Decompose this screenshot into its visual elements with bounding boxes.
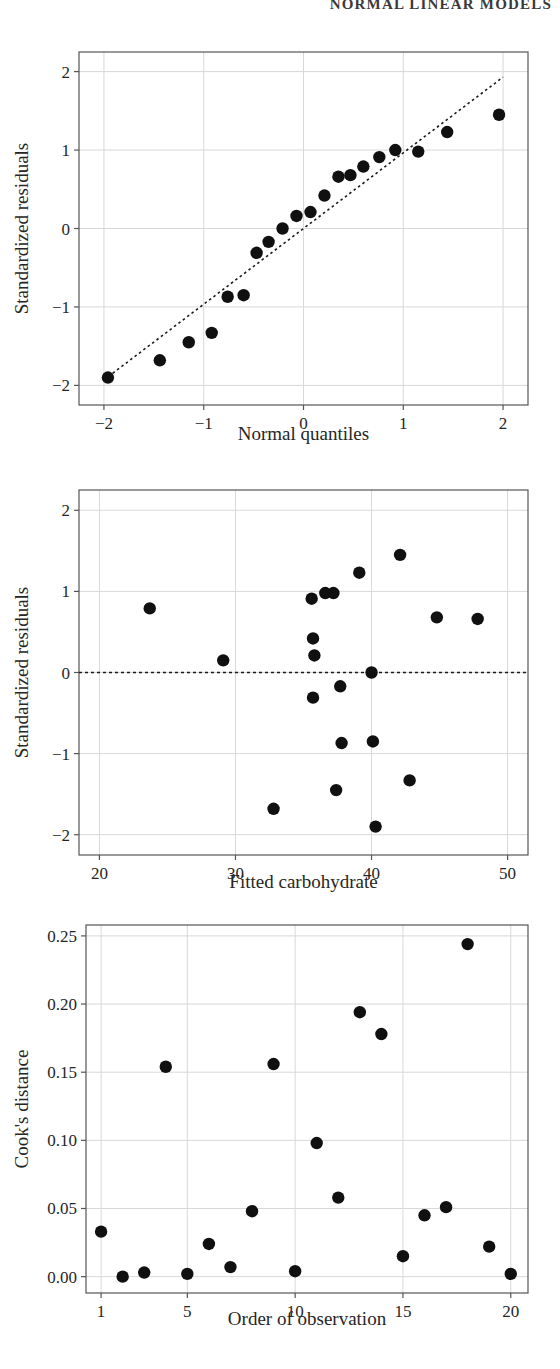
- data-point: [330, 784, 342, 796]
- data-point: [246, 1205, 258, 1217]
- data-point: [154, 354, 166, 366]
- figure-cooks-distance: 151015200.000.050.100.150.200.25Order of…: [0, 915, 560, 1355]
- data-point: [335, 737, 347, 749]
- data-point: [262, 236, 274, 248]
- y-axis-tick-label: −2: [52, 376, 70, 395]
- data-point: [327, 587, 339, 599]
- data-point: [181, 1268, 193, 1280]
- y-axis-tick-label: 2: [62, 501, 71, 520]
- x-axis-tick-label: −1: [195, 414, 213, 433]
- x-axis-title: Normal quantiles: [238, 423, 369, 444]
- y-axis-title: Standardized residuals: [11, 143, 32, 314]
- cooks-distance-plot: 151015200.000.050.100.150.200.25Order of…: [0, 915, 560, 1355]
- data-point: [334, 680, 346, 692]
- y-axis-tick-label: 1: [62, 141, 71, 160]
- data-point: [102, 371, 114, 383]
- x-axis-title: Order of observation: [228, 1308, 387, 1329]
- normal-qq-plot: −2−1012−2−1012Normal quantilesStandardiz…: [0, 40, 560, 480]
- y-axis-tick-label: 0.15: [47, 1063, 77, 1082]
- data-point: [289, 1265, 301, 1277]
- data-point: [311, 1137, 323, 1149]
- figure-normal-qq: −2−1012−2−1012Normal quantilesStandardiz…: [0, 40, 560, 480]
- data-point: [353, 567, 365, 579]
- data-point: [203, 1238, 215, 1250]
- data-point: [276, 222, 288, 234]
- data-point: [290, 210, 302, 222]
- y-axis-tick-label: 0.00: [47, 1268, 77, 1287]
- data-point: [304, 206, 316, 218]
- y-axis-title: Standardized residuals: [11, 587, 32, 758]
- data-point: [461, 938, 473, 950]
- data-point: [318, 189, 330, 201]
- data-point: [403, 774, 415, 786]
- data-point: [483, 1240, 495, 1252]
- x-axis-tick-label: 1: [97, 1302, 106, 1321]
- y-axis-tick-label: 2: [62, 63, 71, 82]
- running-header: NORMAL LINEAR MODELS: [330, 0, 552, 12]
- y-axis-title: Cook's distance: [11, 1050, 32, 1169]
- data-point: [332, 1191, 344, 1203]
- data-point: [307, 632, 319, 644]
- plot-group: 151015200.000.050.100.150.200.25Order of…: [11, 925, 528, 1329]
- data-point: [160, 1061, 172, 1073]
- data-point: [505, 1268, 517, 1280]
- data-point: [116, 1270, 128, 1282]
- x-axis-tick-label: 1: [399, 414, 408, 433]
- data-point: [471, 613, 483, 625]
- figure-residuals-vs-fitted: 20304050−2−1012Fitted carbohydrateStanda…: [0, 480, 560, 910]
- x-axis-tick-label: 20: [502, 1302, 519, 1321]
- data-point: [389, 144, 401, 156]
- data-point: [375, 1028, 387, 1040]
- data-point: [305, 592, 317, 604]
- y-axis-tick-label: 1: [62, 582, 71, 601]
- y-axis-tick-label: −2: [52, 826, 70, 845]
- data-point: [412, 145, 424, 157]
- y-axis-tick-label: 0.05: [47, 1199, 77, 1218]
- data-point: [369, 820, 381, 832]
- y-axis-tick-label: 0: [62, 664, 71, 683]
- y-axis-tick-label: 0.20: [47, 995, 77, 1014]
- x-axis-tick-label: −2: [95, 414, 113, 433]
- x-axis-tick-label: 2: [499, 414, 508, 433]
- data-point: [267, 1058, 279, 1070]
- data-point: [493, 109, 505, 121]
- data-point: [367, 735, 379, 747]
- data-point: [138, 1266, 150, 1278]
- x-axis-tick-label: 5: [183, 1302, 192, 1321]
- data-point: [206, 327, 218, 339]
- data-point: [344, 169, 356, 181]
- data-point: [418, 1209, 430, 1221]
- y-axis-tick-label: 0.25: [47, 927, 77, 946]
- data-point: [250, 247, 262, 259]
- data-point: [217, 654, 229, 666]
- y-axis-tick-label: −1: [52, 298, 70, 317]
- x-axis-tick-label: 50: [499, 864, 516, 883]
- data-point: [332, 171, 344, 183]
- y-axis-tick-label: 0.10: [47, 1131, 77, 1150]
- data-point: [308, 649, 320, 661]
- data-point: [394, 549, 406, 561]
- data-point: [221, 291, 233, 303]
- plot-panel-border: [86, 925, 528, 1293]
- y-axis-tick-label: −1: [52, 745, 70, 764]
- data-point: [224, 1261, 236, 1273]
- x-axis-tick-label: 15: [394, 1302, 411, 1321]
- data-point: [95, 1225, 107, 1237]
- data-point: [354, 1006, 366, 1018]
- data-point: [307, 691, 319, 703]
- data-point: [440, 1201, 452, 1213]
- data-point: [373, 151, 385, 163]
- data-point: [397, 1250, 409, 1262]
- plot-group: −2−1012−2−1012Normal quantilesStandardiz…: [11, 52, 528, 444]
- residuals-vs-fitted-plot: 20304050−2−1012Fitted carbohydrateStanda…: [0, 480, 560, 910]
- data-point: [365, 666, 377, 678]
- data-point: [237, 289, 249, 301]
- data-point: [267, 803, 279, 815]
- data-point: [441, 126, 453, 138]
- plot-group: 20304050−2−1012Fitted carbohydrateStanda…: [11, 490, 528, 892]
- x-axis-title: Fitted carbohydrate: [229, 871, 377, 892]
- data-point: [357, 160, 369, 172]
- data-point: [144, 602, 156, 614]
- y-axis-tick-label: 0: [62, 220, 71, 239]
- x-axis-tick-label: 20: [91, 864, 108, 883]
